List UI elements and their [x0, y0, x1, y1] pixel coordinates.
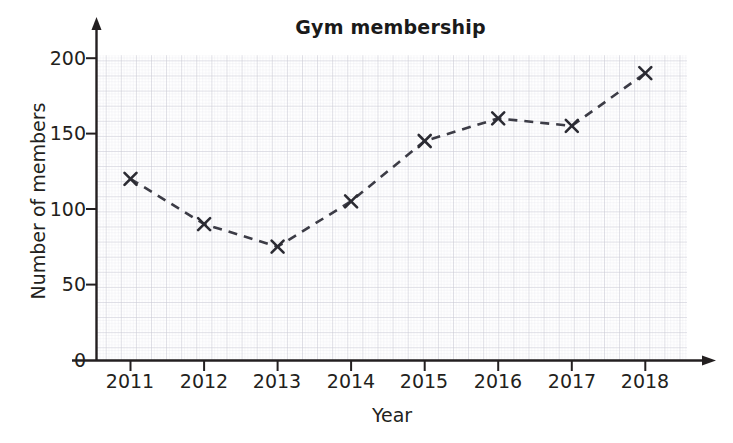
plot-area	[0, 0, 733, 443]
gym-membership-chart: Gym membership Number of members Year 20…	[0, 0, 733, 443]
grid-background	[97, 55, 687, 360]
